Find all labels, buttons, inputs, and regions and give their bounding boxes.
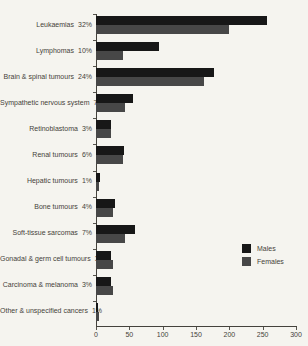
legend-item-females: Females [242, 257, 284, 266]
bar-females-4 [96, 129, 111, 138]
y-axis-tick [93, 66, 96, 67]
y-axis-tick [93, 223, 96, 224]
category-label: Retinoblastoma3% [0, 125, 92, 133]
category-name: Soft-tissue sarcomas [13, 229, 78, 236]
category-percent: 7% [82, 229, 92, 236]
legend-swatch-females [242, 257, 251, 266]
category-label: Gonadal & germ cell tumours3% [0, 255, 92, 263]
category-name: Brain & spinal tumours [4, 73, 74, 80]
category-label: Carcinoma & melanoma3% [0, 281, 92, 289]
bar-males-3 [96, 94, 133, 103]
x-axis-tick [229, 327, 230, 330]
category-label: Lymphomas10% [0, 47, 92, 55]
bar-males-10 [96, 277, 111, 286]
x-axis-tick-label: 50 [117, 331, 141, 338]
category-label: Sympathetic nervous system7% [0, 99, 92, 107]
category-label: Hepatic tumours1% [0, 177, 92, 185]
category-percent: 32% [78, 21, 92, 28]
bar-females-10 [96, 286, 113, 295]
x-axis-tick-label: 200 [217, 331, 241, 338]
y-axis-tick [93, 275, 96, 276]
category-percent: 6% [82, 151, 92, 158]
category-name: Bone tumours [34, 203, 78, 210]
y-axis-tick [93, 144, 96, 145]
bar-females-9 [96, 260, 113, 269]
bar-females-0 [96, 25, 229, 34]
category-name: Other & unspecified cancers [0, 307, 88, 314]
y-axis-tick [93, 14, 96, 15]
category-percent: 3% [82, 125, 92, 132]
bar-females-11 [96, 312, 99, 321]
category-label: Renal tumours6% [0, 151, 92, 159]
bar-males-1 [96, 42, 159, 51]
category-name: Leukaemias [36, 21, 74, 28]
x-axis-tick-label: 250 [251, 331, 275, 338]
category-name: Sympathetic nervous system [0, 99, 89, 106]
x-axis-tick [163, 327, 164, 330]
x-axis-tick-label: 100 [151, 331, 175, 338]
category-name: Retinoblastoma [29, 125, 78, 132]
x-axis-tick-label: 300 [284, 331, 308, 338]
y-axis-tick [93, 301, 96, 302]
x-axis-tick [196, 327, 197, 330]
bar-females-2 [96, 77, 204, 86]
bar-males-4 [96, 120, 111, 129]
category-name: Gonadal & germ cell tumours [0, 255, 91, 262]
x-axis-tick [129, 327, 130, 330]
bar-males-0 [96, 16, 267, 25]
category-name: Carcinoma & melanoma [3, 281, 78, 288]
bar-females-3 [96, 103, 125, 112]
bar-females-8 [96, 234, 125, 243]
x-axis-tick [263, 327, 264, 330]
category-percent: 3% [82, 281, 92, 288]
category-label: Bone tumours4% [0, 203, 92, 211]
bar-females-1 [96, 51, 123, 60]
bar-males-7 [96, 199, 115, 208]
bar-males-11 [96, 303, 98, 312]
category-label: Leukaemias32% [0, 21, 92, 29]
plot-area [96, 14, 297, 327]
category-percent: 4% [82, 203, 92, 210]
bar-males-8 [96, 225, 135, 234]
x-axis-tick [296, 327, 297, 330]
category-percent: 24% [78, 73, 92, 80]
bar-females-5 [96, 155, 123, 164]
y-axis-tick [93, 118, 96, 119]
legend-label: Males [257, 245, 276, 252]
category-name: Hepatic tumours [27, 177, 78, 184]
bar-males-5 [96, 146, 124, 155]
y-axis-tick [93, 92, 96, 93]
x-axis-tick [96, 327, 97, 330]
category-percent: 10% [78, 47, 92, 54]
category-name: Lymphomas [36, 47, 74, 54]
legend-item-males: Males [242, 244, 284, 253]
x-axis-tick-label: 150 [184, 331, 208, 338]
category-label: Other & unspecified cancers1% [0, 307, 92, 315]
childhood-cancer-bar-chart: MalesFemales Leukaemias32%Lymphomas10%Br… [0, 0, 308, 346]
y-axis-tick [93, 249, 96, 250]
x-axis-tick-label: 0 [84, 331, 108, 338]
category-name: Renal tumours [32, 151, 78, 158]
legend-swatch-males [242, 244, 251, 253]
legend-label: Females [257, 258, 284, 265]
y-axis-tick [93, 40, 96, 41]
category-label: Soft-tissue sarcomas7% [0, 229, 92, 237]
category-percent: 1% [82, 177, 92, 184]
legend: MalesFemales [242, 244, 284, 270]
bar-males-2 [96, 68, 214, 77]
bar-females-6 [96, 182, 99, 191]
bar-females-7 [96, 208, 113, 217]
bar-males-6 [96, 173, 100, 182]
bar-males-9 [96, 251, 111, 260]
y-axis-tick [93, 171, 96, 172]
y-axis-tick [93, 197, 96, 198]
category-label: Brain & spinal tumours24% [0, 73, 92, 81]
